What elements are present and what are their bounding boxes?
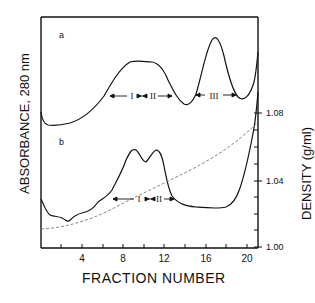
y-tick-label: 1.08	[266, 108, 284, 118]
annotations-b	[113, 197, 174, 201]
annotation-II-b: II	[156, 194, 162, 204]
chart-canvas: 4 8 12 16 20 1.00 1.04 1.08 a b I II III	[0, 0, 315, 303]
x-axis-label: FRACTION NUMBER	[82, 270, 226, 286]
density-curve	[41, 122, 258, 229]
annotation-I-b: I	[138, 194, 141, 204]
annotation-II-a: II	[150, 91, 156, 101]
y-axis-label-left: ABSORBANCE, 280 nm	[17, 44, 32, 204]
plot-frame	[41, 17, 258, 248]
x-tick-label: 12	[158, 253, 170, 264]
panel-label-a: a	[59, 30, 64, 40]
annotation-III: III	[210, 91, 219, 101]
panel-label-b: b	[59, 137, 64, 147]
y-tick-label: 1.04	[266, 176, 284, 186]
y-axis-label-right: DENSITY (g/ml)	[299, 104, 314, 244]
annotation-I-a: I	[131, 91, 134, 101]
x-tick-label: 4	[79, 253, 85, 264]
absorbance-curve-b	[41, 92, 258, 221]
x-tick-label: 16	[200, 253, 212, 264]
absorbance-curve-a	[41, 38, 258, 126]
x-tick-label: 8	[120, 253, 126, 264]
right-tick-labels: 1.00 1.04 1.08	[266, 108, 284, 252]
x-tick-label: 20	[241, 253, 253, 264]
y-tick-label: 1.00	[266, 242, 284, 252]
x-tick-labels: 4 8 12 16 20	[79, 253, 253, 264]
